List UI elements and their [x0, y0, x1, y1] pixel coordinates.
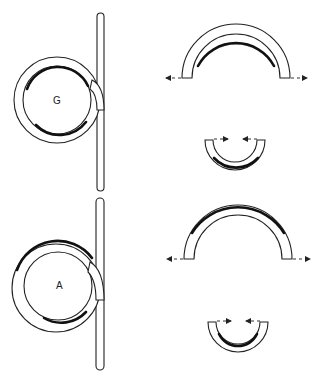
- arch-section-g: [166, 24, 307, 78]
- panel-g: G: [14, 13, 307, 191]
- arch-shading: [198, 43, 274, 66]
- diagram: G A: [0, 0, 322, 385]
- arch-body: [182, 24, 290, 78]
- coil-spring-g: G: [14, 13, 104, 191]
- cup-body: [205, 140, 265, 170]
- coil-spring-a: A: [12, 198, 104, 370]
- panel-a: A: [12, 198, 310, 370]
- arch-section-a: [167, 205, 310, 259]
- cup-section-g: [205, 139, 265, 170]
- coil-label: A: [56, 280, 63, 291]
- arch-body: [184, 205, 292, 259]
- cup-body: [208, 322, 268, 352]
- coil-label: G: [53, 95, 61, 106]
- cup-section-a: [208, 321, 268, 352]
